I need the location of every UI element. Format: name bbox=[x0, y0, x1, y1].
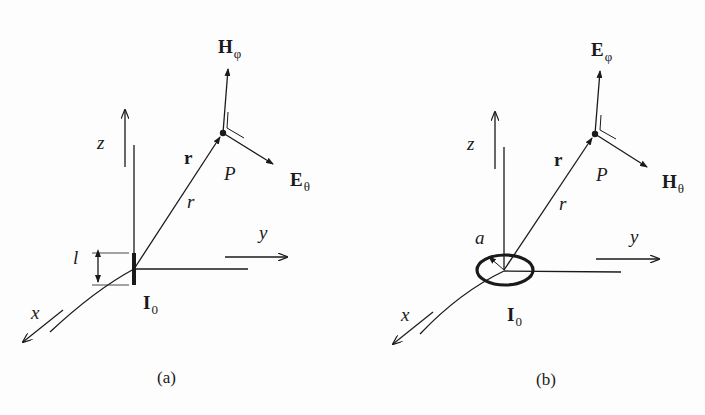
dipole-diagrams bbox=[0, 0, 705, 415]
right-angle-mark bbox=[227, 112, 244, 138]
side-field-vector bbox=[223, 133, 273, 164]
vertical-field-vector bbox=[595, 71, 600, 134]
label-z-axis: z bbox=[467, 134, 474, 153]
caption-b: (b) bbox=[536, 371, 556, 388]
x-axis-arrow bbox=[393, 312, 433, 344]
label-r-distance: r bbox=[187, 192, 194, 211]
label-h-theta: Hθ bbox=[662, 172, 684, 191]
label-z-axis: z bbox=[97, 133, 104, 152]
panel-b bbox=[393, 71, 659, 344]
label-y-axis: y bbox=[259, 223, 267, 242]
label-h-phi: Hφ bbox=[218, 37, 241, 56]
label-radius-a: a bbox=[475, 228, 485, 247]
label-length-l: l bbox=[73, 248, 78, 267]
right-angle-mark bbox=[600, 115, 616, 139]
label-x-axis: x bbox=[401, 305, 409, 324]
label-r-vector: r bbox=[554, 150, 562, 169]
label-point-p: P bbox=[224, 164, 236, 183]
label-e-theta: Eθ bbox=[290, 170, 310, 189]
r-vector bbox=[134, 137, 220, 269]
label-y-axis: y bbox=[630, 227, 638, 246]
y-axis-line bbox=[504, 271, 621, 272]
label-r-distance: r bbox=[559, 194, 566, 213]
point-p-dot bbox=[220, 130, 226, 136]
label-point-p: P bbox=[596, 165, 608, 184]
label-x-axis: x bbox=[31, 303, 39, 322]
label-current-i0: I0 bbox=[507, 305, 522, 324]
label-r-vector: r bbox=[184, 148, 192, 167]
current-loop bbox=[477, 255, 533, 285]
label-e-phi: Eφ bbox=[591, 40, 612, 59]
label-current-i0: I0 bbox=[143, 293, 158, 312]
radius-arrow bbox=[489, 257, 504, 270]
point-p-dot bbox=[592, 131, 598, 137]
caption-a: (a) bbox=[157, 369, 176, 386]
x-axis-line bbox=[420, 271, 504, 334]
x-axis-line bbox=[50, 269, 134, 332]
side-field-vector bbox=[595, 134, 647, 167]
r-vector bbox=[504, 138, 592, 270]
